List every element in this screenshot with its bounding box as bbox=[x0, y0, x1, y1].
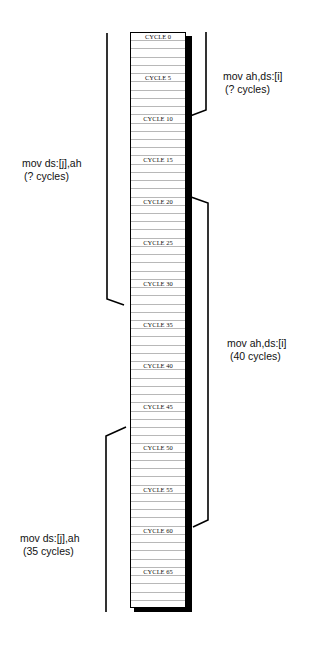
annotation-instruction: mov ds:[j],ah bbox=[22, 157, 82, 170]
annotation-instruction: mov ds:[j],ah bbox=[20, 532, 80, 545]
annotation-instruction: mov ah,ds:[i] bbox=[227, 337, 287, 350]
annotation-cycles: (35 cycles) bbox=[20, 545, 80, 558]
bracket-left-2 bbox=[106, 427, 126, 612]
annotation-instruction: mov ah,ds:[i] bbox=[223, 70, 283, 83]
annotation-cycles: (? cycles) bbox=[22, 170, 82, 183]
annotation-cycles: (40 cycles) bbox=[227, 350, 287, 363]
annotation-left-1: mov ds:[j],ah (? cycles) bbox=[22, 157, 82, 182]
annotation-cycles: (? cycles) bbox=[223, 83, 283, 96]
bracket-right-1 bbox=[190, 32, 206, 116]
annotation-right-2: mov ah,ds:[i] (40 cycles) bbox=[227, 337, 287, 362]
bracket-left-1 bbox=[107, 33, 124, 305]
annotation-left-2: mov ds:[j],ah (35 cycles) bbox=[20, 532, 80, 557]
bracket-right-2 bbox=[191, 197, 208, 527]
annotation-right-1: mov ah,ds:[i] (? cycles) bbox=[223, 70, 283, 95]
